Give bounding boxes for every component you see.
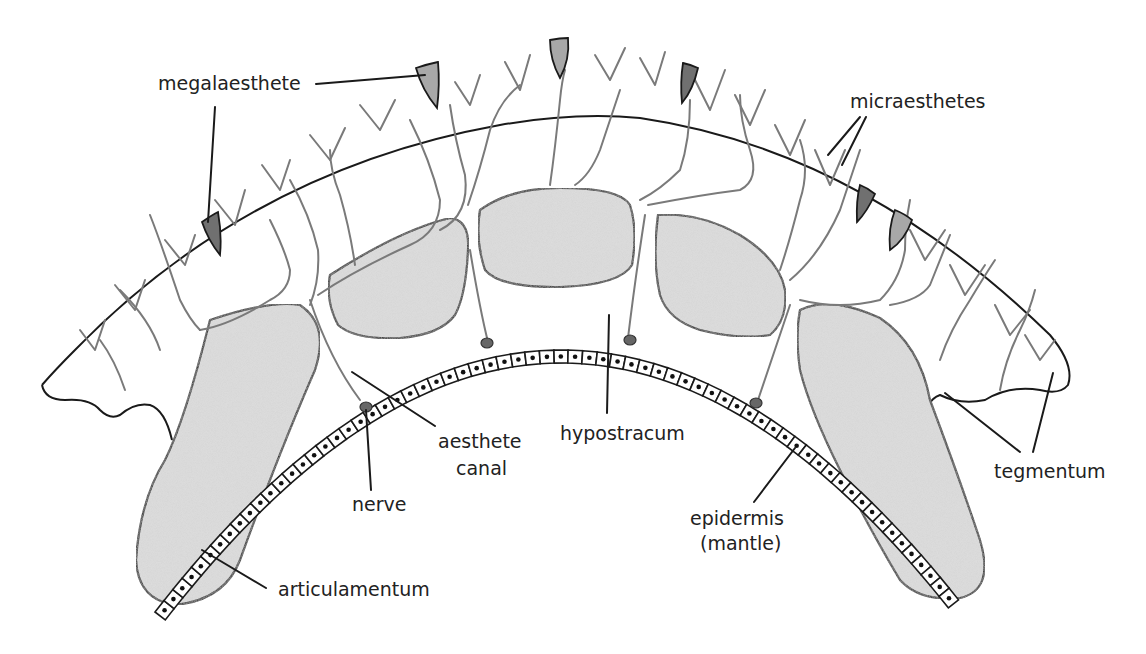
- center-plate: [478, 188, 634, 287]
- cell-nucleus: [421, 385, 426, 390]
- cell-nucleus: [828, 471, 833, 476]
- cell-nucleus: [735, 404, 740, 409]
- megalaesthete-sensor: [890, 210, 912, 250]
- cell-nucleus: [710, 391, 715, 396]
- cell-nucleus: [228, 532, 233, 537]
- cell-nucleus: [838, 480, 843, 485]
- cell-nucleus: [817, 461, 822, 466]
- cell-nucleus: [312, 453, 317, 458]
- shell-plates: [136, 188, 985, 605]
- cell-nucleus: [162, 608, 167, 613]
- megalaesthete-leader-right: [316, 75, 425, 84]
- cell-nucleus: [601, 357, 606, 362]
- cell-nucleus: [937, 585, 942, 590]
- cell-nucleus: [573, 354, 578, 359]
- right-inner-plate: [655, 215, 785, 337]
- cell-nucleus: [323, 444, 328, 449]
- label-articulamentum: articulamentum: [278, 578, 430, 600]
- cell-nucleus: [696, 385, 701, 390]
- cell-nucleus: [643, 366, 648, 371]
- epidermis-leader: [754, 448, 795, 502]
- cell-nucleus: [629, 362, 634, 367]
- cell-nucleus: [301, 462, 306, 467]
- cell-nucleus: [657, 370, 662, 375]
- cell-nucleus: [290, 471, 295, 476]
- left-articulamentum-plate: [136, 304, 320, 605]
- cell-nucleus: [947, 596, 952, 601]
- cell-nucleus: [771, 427, 776, 432]
- cell-nucleus: [238, 521, 243, 526]
- cell-nucleus: [919, 563, 924, 568]
- tegmentum-leader-2: [1033, 373, 1053, 452]
- cell-nucleus: [759, 419, 764, 424]
- tegmentum-left-edge: [42, 385, 172, 440]
- cell-nucleus: [358, 419, 363, 424]
- cell-nucleus: [545, 355, 550, 360]
- cell-nucleus: [279, 481, 284, 486]
- label-epidermis-1: epidermis: [690, 507, 784, 529]
- nerve-node: [624, 335, 636, 345]
- cell-nucleus: [474, 366, 479, 371]
- cell-nucleus: [335, 436, 340, 441]
- cell-nucleus: [900, 541, 905, 546]
- cell-nucleus: [860, 500, 865, 505]
- tegmentum-leader-1: [945, 393, 1020, 452]
- nerve-node: [481, 338, 493, 348]
- label-epidermis-2: (mantle): [700, 532, 781, 554]
- cell-nucleus: [180, 586, 185, 591]
- megalaesthete-sensor: [857, 185, 875, 222]
- cell-nucleus: [722, 397, 727, 402]
- cell-nucleus: [615, 359, 620, 364]
- megalaesthete-leader-down: [208, 107, 215, 222]
- label-aesthete-canal-1: aesthete: [438, 430, 522, 452]
- cell-nucleus: [747, 411, 752, 416]
- chiton-shell-diagram: megalaesthete micraesthetes aesthete can…: [0, 0, 1146, 654]
- cell-nucleus: [806, 452, 811, 457]
- cell-nucleus: [530, 356, 535, 361]
- cell-nucleus: [434, 379, 439, 384]
- cell-nucleus: [488, 362, 493, 367]
- cell-nucleus: [218, 542, 223, 547]
- nerve-nodes: [360, 335, 762, 412]
- cell-nucleus: [670, 374, 675, 379]
- cell-nucleus: [849, 490, 854, 495]
- cell-nucleus: [461, 370, 466, 375]
- cell-nucleus: [683, 379, 688, 384]
- hypostracum-leader: [607, 315, 609, 413]
- cell-nucleus: [502, 359, 507, 364]
- cell-nucleus: [909, 552, 914, 557]
- cell-nucleus: [783, 435, 788, 440]
- cell-nucleus: [928, 573, 933, 578]
- cell-nucleus: [890, 530, 895, 535]
- megalaesthete-sensor: [550, 38, 568, 78]
- label-megalaesthete: megalaesthete: [158, 72, 301, 94]
- cell-nucleus: [199, 564, 204, 569]
- label-aesthete-canal-2: canal: [456, 457, 507, 479]
- label-tegmentum: tegmentum: [994, 460, 1105, 482]
- label-hypostracum: hypostracum: [560, 422, 685, 444]
- megalaesthete-sensor: [202, 212, 221, 255]
- cell-nucleus: [370, 412, 375, 417]
- right-articulamentum-plate: [798, 304, 985, 599]
- cell-nucleus: [447, 374, 452, 379]
- cell-nucleus: [383, 405, 388, 410]
- cell-nucleus: [516, 357, 521, 362]
- label-micraesthetes: micraesthetes: [850, 90, 986, 112]
- cell-nucleus: [559, 354, 564, 359]
- cell-nucleus: [268, 491, 273, 496]
- megalaesthete-sensor: [416, 62, 439, 108]
- cell-nucleus: [258, 501, 263, 506]
- cell-nucleus: [587, 355, 592, 360]
- cell-nucleus: [346, 427, 351, 432]
- label-nerve: nerve: [352, 493, 406, 515]
- cell-nucleus: [248, 511, 253, 516]
- cell-nucleus: [408, 391, 413, 396]
- nerve-node: [750, 398, 762, 408]
- cell-nucleus: [870, 510, 875, 515]
- cell-nucleus: [880, 520, 885, 525]
- cell-nucleus: [171, 597, 176, 602]
- cell-nucleus: [189, 575, 194, 580]
- micraesthetes-leader-1: [828, 117, 860, 155]
